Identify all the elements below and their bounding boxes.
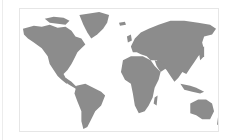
madagascar bbox=[154, 96, 158, 106]
south-america bbox=[74, 84, 105, 129]
australia bbox=[190, 100, 214, 120]
greenland bbox=[79, 12, 109, 39]
divider-line bbox=[2, 0, 3, 140]
north-america bbox=[23, 25, 85, 84]
world-map-graphic bbox=[20, 9, 218, 131]
indonesia bbox=[180, 84, 204, 94]
africa bbox=[121, 56, 161, 113]
world-map[interactable] bbox=[19, 8, 219, 132]
uk bbox=[127, 35, 132, 43]
iceland bbox=[119, 22, 126, 26]
new-zealand bbox=[217, 115, 218, 125]
arctic-islands bbox=[45, 17, 70, 25]
